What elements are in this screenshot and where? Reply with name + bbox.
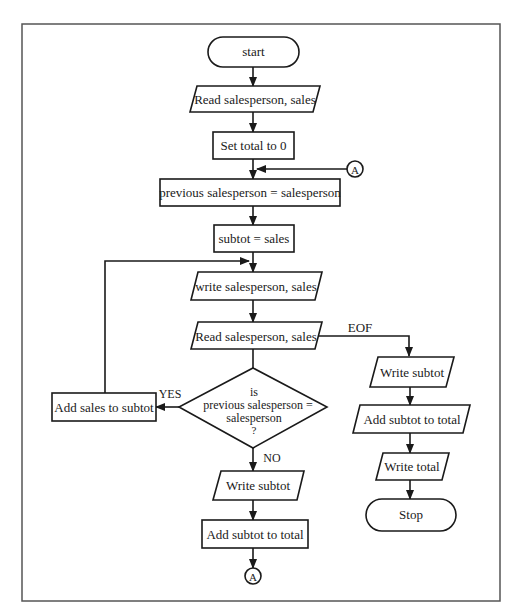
yes-label: YES — [159, 387, 182, 401]
start-label: start — [242, 44, 265, 59]
add-subtot-no-label: Add subtot to total — [206, 527, 304, 542]
add-sales-process: Add sales to subtot — [52, 393, 156, 421]
read-1-label: Read salesperson, sales — [194, 92, 316, 107]
write-label: write salesperson, sales — [195, 279, 317, 294]
decision-line-2: previous salesperson = — [203, 398, 313, 412]
no-label: NO — [263, 451, 281, 465]
write-total-label: Write total — [384, 459, 440, 474]
read-input-2: Read salesperson, sales — [191, 322, 322, 349]
eof-label: EOF — [348, 320, 373, 335]
write-total-output: Write total — [376, 453, 449, 480]
stop-label: Stop — [399, 507, 423, 522]
add-subtot-eof: Add subtot to total — [353, 405, 470, 433]
read-2-label: Read salesperson, sales — [195, 329, 317, 344]
write-subtot-eof-label: Write subtot — [380, 365, 444, 380]
subtot-assign-label: subtot = sales — [219, 231, 290, 246]
flowchart-diagram: start Read salesperson, sales Set total … — [0, 0, 515, 616]
set-total-label: Set total to 0 — [220, 138, 286, 153]
add-subtot-eof-label: Add subtot to total — [363, 412, 461, 427]
write-subtot-eof: Write subtot — [370, 357, 454, 387]
write-subtot-no: Write subtot — [213, 471, 304, 500]
connector-a-bottom: A — [245, 568, 261, 584]
write-subtot-no-label: Write subtot — [226, 478, 290, 493]
prev-salesperson-process: previous salesperson = salesperson — [159, 179, 341, 206]
add-subtot-no: Add subtot to total — [202, 520, 308, 548]
set-total-process: Set total to 0 — [213, 132, 294, 159]
stop-terminal: Stop — [366, 499, 456, 531]
decision-line-3: salesperson — [226, 411, 281, 425]
add-sales-label: Add sales to subtot — [54, 400, 154, 415]
subtot-assign-process: subtot = sales — [214, 225, 294, 252]
decision-line-1: is — [250, 385, 258, 399]
connector-a-top-label: A — [351, 164, 359, 176]
write-output: write salesperson, sales — [191, 272, 322, 300]
decision-line-4: ? — [252, 424, 257, 436]
prev-salesperson-label: previous salesperson = salesperson — [159, 185, 341, 200]
connector-a-top: A — [347, 161, 363, 177]
connector-a-bottom-label: A — [249, 571, 257, 583]
start-terminal: start — [208, 37, 299, 67]
read-input-1: Read salesperson, sales — [190, 86, 320, 112]
